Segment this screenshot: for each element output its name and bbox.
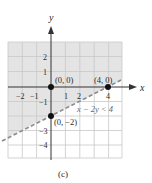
x-tick-label: 4	[106, 92, 110, 101]
y-tick-label: −4	[39, 141, 48, 150]
x-axis-label: x	[139, 82, 145, 93]
x-tick-label: −1	[30, 92, 39, 101]
x-tick-label: −2	[16, 92, 25, 101]
figure-caption: (c)	[58, 169, 68, 179]
y-tick-label: −1	[39, 98, 48, 107]
inequality-label: x − 2y < 4	[76, 104, 114, 114]
x-tick-label: 1	[64, 92, 68, 101]
x-tick-label: 2	[77, 92, 81, 101]
point-label-origin: (0, 0)	[55, 75, 74, 85]
y-tick-label: 2	[43, 53, 47, 62]
x-axis-arrow-icon	[129, 84, 137, 90]
point-label-x-intercept: (4, 0)	[94, 75, 113, 85]
point-origin	[48, 84, 54, 90]
y-tick-label: −3	[39, 127, 48, 136]
point-label-y-intercept: (0, −2)	[54, 117, 77, 127]
y-axis-label: y	[48, 12, 54, 23]
inequality-graph: y x −2 −1 1 2 4 2 1 −1 −3 −4 (0, 0) (4, …	[0, 0, 152, 183]
y-axis-arrow-icon	[48, 26, 54, 34]
y-tick-label: 1	[43, 68, 47, 77]
